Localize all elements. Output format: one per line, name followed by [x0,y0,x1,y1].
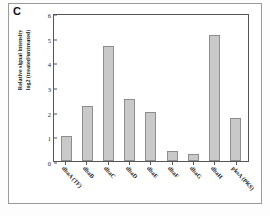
x-label-slot: dbaH [204,166,225,206]
bar [167,151,178,161]
x-tick-label: dbaE [146,165,159,179]
x-label-slot: dbaC [98,166,119,206]
bar-slot [56,15,77,161]
bar-slot [77,15,98,161]
y-axis-title: Relative signal intensity log2 (treated/… [16,5,32,115]
bar-slot [119,15,140,161]
bar-slot [204,15,225,161]
bar [230,118,241,161]
bar-slot [98,15,119,161]
x-label-slot: dbaE [140,166,161,206]
bar-series [54,15,248,161]
x-tick-mark [108,162,109,165]
x-tick-label: dbaF [167,165,180,179]
x-tick-mark [236,162,237,165]
bar [145,112,156,161]
x-tick-mark [86,162,87,165]
bar [188,154,199,161]
x-label-slot: dbaB [76,166,97,206]
x-label-slot: pksA (PKS) [226,166,247,206]
bar [82,106,93,162]
x-tick-label: dbaB [82,165,95,179]
x-tick-label: dbaG [188,165,202,180]
figure-panel: C Relative signal intensity log2 (treate… [0,0,270,216]
bar [61,136,72,161]
x-label-slot: dbaA (TF) [55,166,76,206]
x-tick-mark [172,162,173,165]
x-tick-label: dbaC [103,165,117,179]
bar-slot [183,15,204,161]
x-label-slot: dbaG [183,166,204,206]
bar [103,46,114,161]
x-tick-label: dbaD [125,165,139,179]
y-axis-title-line-1: Relative signal intensity [16,5,24,115]
bar [209,35,220,161]
x-axis-labels: dbaA (TF)dbaBdbaCdbaDdbaEdbaFdbaGdbaHpks… [53,166,249,206]
y-axis-title-line-2: log2 (treated/untreated) [24,5,32,115]
bar-slot [225,15,246,161]
x-tick-mark [214,162,215,165]
x-tick-mark [150,162,151,165]
bar-slot [140,15,161,161]
bar [124,99,135,161]
x-label-slot: dbaF [162,166,183,206]
x-tick-label: dbaH [210,165,224,180]
x-label-slot: dbaD [119,166,140,206]
plot-area: 0123456 [53,14,249,162]
bar-slot [162,15,183,161]
